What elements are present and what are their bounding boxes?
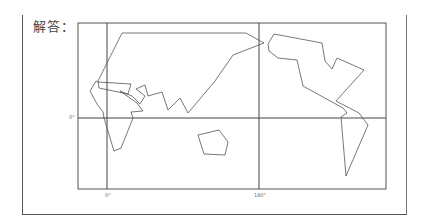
meridian-label-0: 0° (105, 192, 111, 198)
world-map-diagram (0, 0, 425, 224)
equator-label: 0° (69, 114, 75, 120)
eurasia-africa-outline (90, 33, 264, 151)
meridian-label-180: 180° (254, 192, 266, 198)
australia-outline (198, 130, 228, 155)
americas-outline (268, 34, 368, 176)
